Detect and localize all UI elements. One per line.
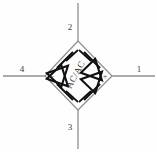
terminal-label-3: 3 (68, 122, 73, 132)
thyristor-upper-right-cathode-bar (84, 52, 100, 68)
thyristor-lower-right-cathode-bar (84, 84, 100, 100)
terminal-label-1: 1 (137, 64, 142, 74)
positive-polarity-mark: + (103, 72, 108, 81)
terminal-label-2: 2 (68, 22, 73, 32)
circuit-svg: 2 1 3 4 + − AC/AC (0, 0, 157, 152)
negative-polarity-mark: − (50, 72, 55, 81)
terminal-label-4: 4 (20, 64, 25, 74)
circuit-diagram-canvas: 2 1 3 4 + − AC/AC (0, 0, 157, 152)
